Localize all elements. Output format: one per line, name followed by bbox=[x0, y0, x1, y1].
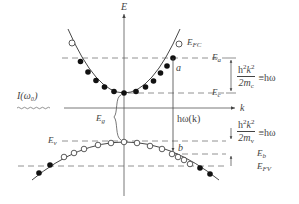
label-Ev-sub: v bbox=[54, 139, 57, 147]
label-EFV-sub: FV bbox=[263, 165, 272, 173]
label-EFV: EFV bbox=[257, 162, 271, 173]
label-Ea: Ea bbox=[212, 53, 221, 64]
label-b: b bbox=[178, 142, 183, 153]
formula-rhs: ≡hω bbox=[258, 72, 275, 83]
fraction: h2k2 2mv bbox=[237, 119, 255, 145]
denominator: 2mv bbox=[238, 132, 254, 145]
label-transition-homega: hω(k) bbox=[177, 114, 200, 124]
label-Ea-sub: a bbox=[218, 56, 222, 64]
label-I-omega0: I(ω₀) bbox=[17, 90, 38, 101]
den-sub: c bbox=[251, 82, 254, 90]
formula-valence: h2k2 2mv ≡hω bbox=[237, 119, 276, 145]
k-axis-label: k bbox=[240, 103, 244, 113]
label-Ec-sub: c bbox=[218, 91, 221, 99]
label-Eg: Eg bbox=[96, 114, 105, 125]
conduction-electrons bbox=[69, 40, 182, 96]
num-k-sup: 2 bbox=[251, 118, 255, 126]
band-diagram bbox=[0, 0, 299, 204]
label-homega-k: hω(k) bbox=[177, 113, 200, 124]
label-Eg-sub: g bbox=[102, 117, 106, 125]
label-Ec: Ec bbox=[212, 88, 221, 99]
label-E: E bbox=[121, 1, 127, 12]
label-Eb-sub: b bbox=[263, 152, 267, 160]
label-EFC-sub: FC bbox=[193, 41, 202, 49]
den-2m: 2m bbox=[239, 77, 251, 88]
label-a: a bbox=[176, 62, 181, 73]
label-EFC: EFC bbox=[187, 38, 201, 49]
wavy-light-icon bbox=[17, 107, 50, 109]
formula-rhs: ≡hω bbox=[258, 127, 275, 138]
energy-axis-label: E bbox=[121, 2, 127, 12]
valence-states bbox=[36, 139, 213, 177]
energy-level-lines bbox=[18, 58, 226, 166]
denominator: 2mc bbox=[239, 77, 254, 90]
incident-light-label: I(ω₀) bbox=[17, 91, 38, 101]
label-Ev: Ev bbox=[48, 136, 57, 147]
bandgap-brace bbox=[114, 95, 121, 140]
den-2m: 2m bbox=[238, 132, 250, 143]
fraction: h2k2 2mc bbox=[237, 64, 255, 90]
label-k: k bbox=[240, 102, 244, 113]
label-Eb: Eb bbox=[257, 149, 266, 160]
formula-conduction: h2k2 2mc ≡hω bbox=[237, 64, 276, 90]
den-sub: v bbox=[251, 137, 255, 145]
numerator: h2k2 bbox=[237, 64, 255, 77]
numerator: h2k2 bbox=[237, 119, 255, 132]
num-k-sup: 2 bbox=[251, 63, 255, 71]
label-point-b: b bbox=[178, 143, 183, 153]
label-point-a: a bbox=[176, 63, 181, 73]
